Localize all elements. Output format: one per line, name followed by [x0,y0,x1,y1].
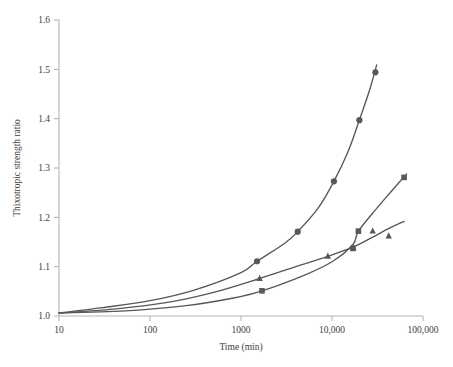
circle-marker [356,117,362,123]
square-marker [401,175,407,181]
y-tick-label: 1.1 [38,262,50,272]
series-square [59,174,407,313]
chart-container: 1.01.11.21.31.41.51.6 Thixotropic streng… [0,0,453,367]
y-axis-ticks [54,20,59,316]
series-triangle-line [59,221,404,313]
circle-marker [372,69,378,75]
circle-marker [295,229,301,235]
y-tick-label: 1.4 [38,114,50,124]
y-tick-label: 1.0 [38,311,50,321]
x-tick-label: 100,000 [408,325,439,335]
square-marker [259,288,265,294]
x-tick-label: 10 [54,325,64,335]
y-axis-title: Thixotropic strength ratio [12,119,22,217]
y-tick-label: 1.5 [38,65,50,75]
circle-marker [254,258,260,264]
circle-marker [331,178,337,184]
x-axis-tick-labels: 10100100010,000100,000 [54,325,438,335]
x-tick-label: 10,000 [319,325,345,335]
x-tick-label: 100 [143,325,158,335]
triangle-marker [386,232,392,238]
square-marker [350,246,356,252]
series-circle [59,65,379,313]
series-circle-line [59,65,377,313]
y-tick-label: 1.2 [38,213,50,223]
x-axis-ticks [59,316,423,321]
y-axis-group: 1.01.11.21.31.41.51.6 Thixotropic streng… [12,15,59,321]
x-tick-label: 1000 [232,325,251,335]
triangle-marker [369,227,375,233]
x-axis-title: Time (min) [219,342,262,353]
y-tick-label: 1.6 [38,15,50,25]
series-layer [59,65,407,313]
thixotropic-strength-chart: 1.01.11.21.31.41.51.6 Thixotropic streng… [0,0,453,367]
y-tick-label: 1.3 [38,163,50,173]
series-triangle [59,221,404,313]
x-axis-group: 10100100010,000100,000 Time (min) [54,316,438,353]
series-square-line [59,174,407,313]
y-axis-tick-labels: 1.01.11.21.31.41.51.6 [38,15,50,321]
square-marker [356,228,362,234]
